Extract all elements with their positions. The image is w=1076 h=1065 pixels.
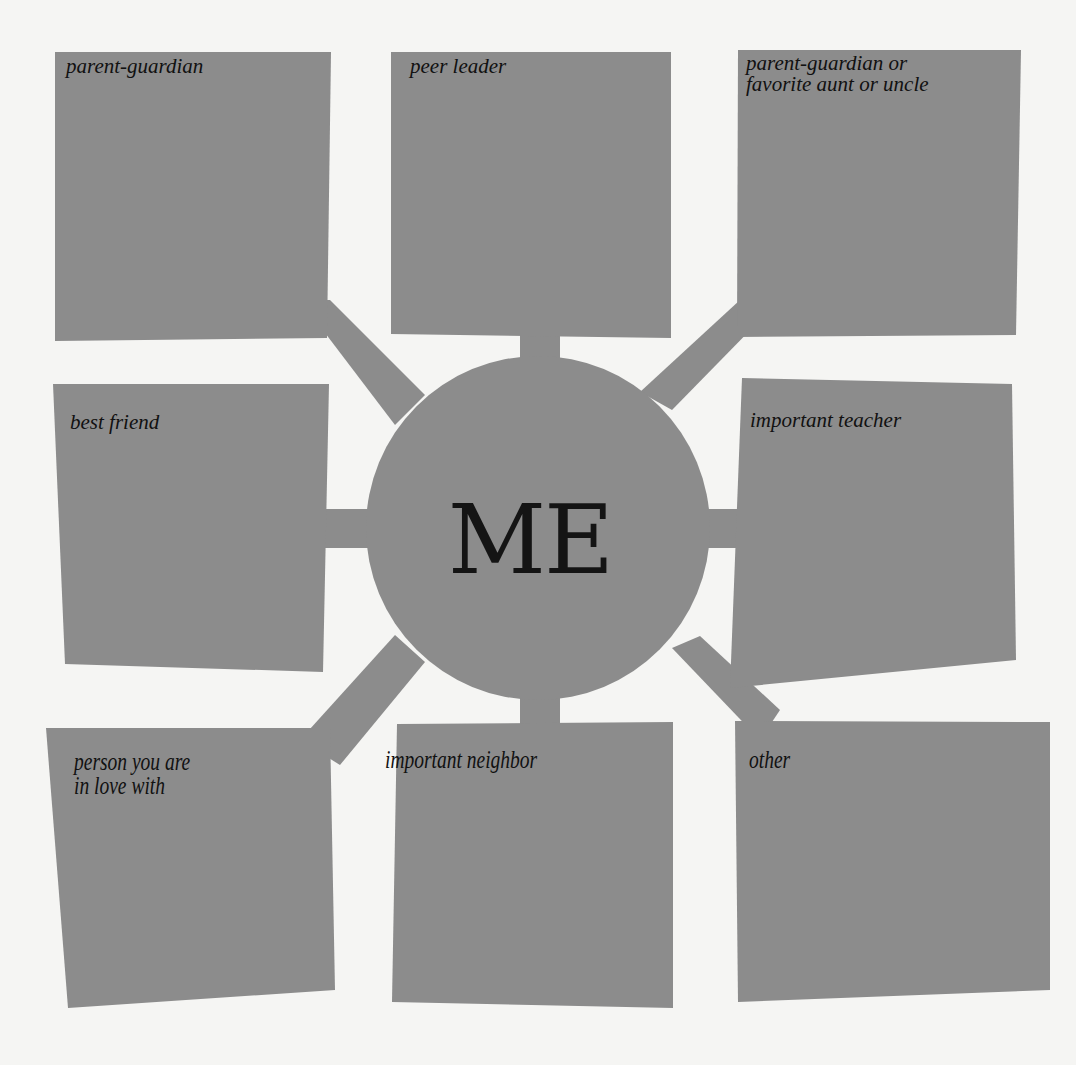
center-label: ME [370,470,690,610]
box-label-important-teacher: important teacher [750,410,901,431]
box-label-parent-guardian-or-aunt-uncle: parent-guardian or favorite aunt or uncl… [746,53,929,95]
box-label-other: other [749,748,790,772]
box-label-person-in-love-with: person you are in love with [74,750,190,798]
box-label-important-neighbor: important neighbor [385,748,537,772]
box-label-parent-guardian: parent-guardian [66,56,203,77]
box-top-left[interactable] [55,52,331,341]
box-top-center[interactable] [391,52,671,338]
box-label-best-friend: best friend [70,412,159,433]
box-label-peer-leader: peer leader [410,56,506,77]
